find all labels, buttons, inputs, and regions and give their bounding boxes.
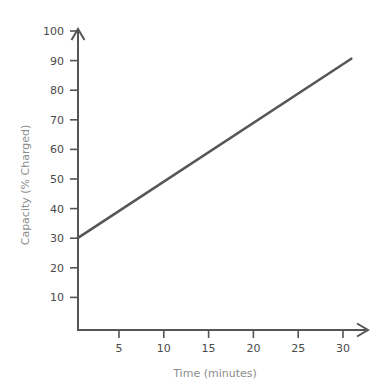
y-tick-label: 10 bbox=[50, 291, 64, 304]
y-tick-label: 60 bbox=[50, 143, 64, 156]
x-axis-tick-labels: 5 10 15 20 25 30 bbox=[116, 342, 351, 355]
y-tick-label: 90 bbox=[50, 55, 64, 68]
line-chart: 100 90 80 70 60 50 40 30 20 10 5 10 15 2… bbox=[0, 0, 383, 392]
y-axis-ticks bbox=[70, 31, 78, 297]
y-tick-label: 30 bbox=[50, 232, 64, 245]
data-line-battery-charge bbox=[78, 59, 351, 238]
chart-container: 100 90 80 70 60 50 40 30 20 10 5 10 15 2… bbox=[0, 0, 383, 392]
x-tick-label: 20 bbox=[246, 342, 260, 355]
x-tick-label: 25 bbox=[291, 342, 305, 355]
y-tick-label: 70 bbox=[50, 114, 64, 127]
y-axis-title: Capacity (% Charged) bbox=[19, 125, 32, 246]
x-axis-ticks bbox=[119, 330, 343, 338]
y-tick-label: 80 bbox=[50, 84, 64, 97]
x-tick-label: 5 bbox=[116, 342, 123, 355]
x-axis-title: Time (minutes) bbox=[172, 367, 257, 380]
y-tick-label: 20 bbox=[50, 262, 64, 275]
y-tick-label: 40 bbox=[50, 203, 64, 216]
x-tick-label: 10 bbox=[157, 342, 171, 355]
y-tick-label: 100 bbox=[43, 25, 64, 38]
y-axis-tick-labels: 100 90 80 70 60 50 40 30 20 10 bbox=[43, 25, 64, 304]
y-tick-label: 50 bbox=[50, 173, 64, 186]
x-tick-label: 30 bbox=[336, 342, 350, 355]
x-tick-label: 15 bbox=[202, 342, 216, 355]
